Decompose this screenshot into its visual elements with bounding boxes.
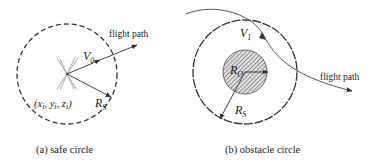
safe-radius-label-b: RS [234, 103, 246, 119]
flight-path-label-b: flight path [320, 72, 360, 82]
flight-path-arrow [100, 45, 137, 60]
caption-a: (a) safe circle [36, 144, 93, 156]
diagram-canvas: flight path V0 (xi, yi, zi) RS (a) safe … [0, 0, 375, 165]
path-direction-arrow [259, 32, 266, 40]
flight-path-label-a: flight path [109, 29, 149, 39]
velocity-label-v1: V1 [240, 26, 251, 42]
panel-a-safe-circle: flight path V0 (xi, yi, zi) RS (a) safe … [17, 24, 149, 156]
velocity-label-v0: V0 [83, 49, 94, 65]
caption-b: (b) obstacle circle [225, 144, 301, 156]
drone-position-label: (xi, yi, zi) [34, 98, 72, 111]
panel-b-obstacle-circle: V1 RO RS flight path (b) obstacle circle [186, 9, 360, 156]
safe-radius-label-a: RS [94, 96, 106, 112]
